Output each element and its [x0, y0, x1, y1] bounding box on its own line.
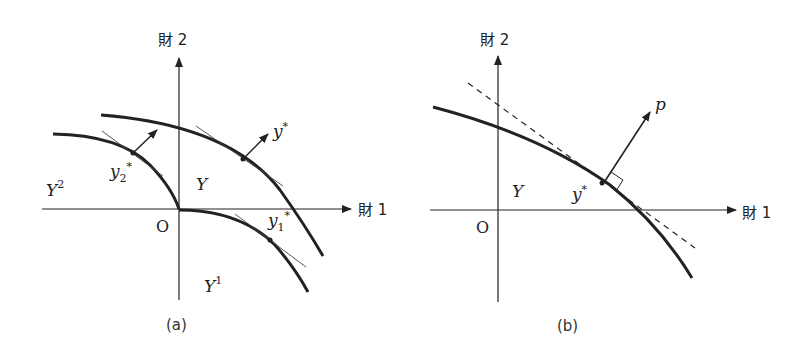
axis-x-label-a: 財 1	[358, 201, 387, 219]
label-y2-star: y2*	[109, 160, 133, 185]
origin-label-b: O	[476, 218, 489, 237]
tangent-y-star	[196, 126, 283, 186]
axis-x-label-b: 財 1	[742, 204, 771, 222]
set-Y1-label: Y1	[204, 274, 222, 296]
axis-y-label-b: 財 2	[480, 31, 509, 49]
normal-arrow-y-star	[243, 134, 268, 159]
set-Y2-label: Y2	[46, 178, 64, 200]
point-y1-star	[268, 238, 273, 243]
label-y1-star: y1*	[267, 209, 291, 234]
axis-y-label-a: 財 2	[158, 31, 187, 49]
normal-arrow-y2-star	[133, 130, 157, 153]
label-y-star-a: y*	[272, 120, 289, 141]
panel-a: 財 2 財 1 O Y Y2 Y1 y* y2* y1* (a)	[42, 31, 387, 334]
price-vector-arrow	[605, 112, 650, 181]
figure: 財 2 財 1 O Y Y2 Y1 y* y2* y1* (a)	[0, 0, 809, 361]
frontier-Y-curve	[101, 115, 323, 256]
origin-label-a: O	[156, 217, 169, 236]
set-Y-label-a: Y	[196, 174, 209, 194]
panel-b: 財 2 財 1 O Y y* p (b)	[430, 31, 771, 335]
caption-a: (a)	[166, 316, 187, 334]
set-Y-label-b: Y	[512, 181, 525, 201]
frontier-Y-curve-b	[433, 107, 692, 278]
caption-b: (b)	[557, 317, 578, 335]
price-vector-label: p	[655, 94, 666, 114]
point-y-star-b	[600, 181, 605, 186]
label-y-star-b: y*	[571, 183, 588, 204]
frontier-Y1-curve	[179, 210, 308, 292]
